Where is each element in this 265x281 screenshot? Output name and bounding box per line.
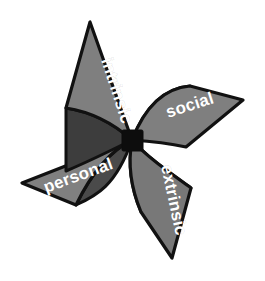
- pinwheel-svg: intrinsic social personal extrinsic: [0, 0, 265, 281]
- pinwheel-figure: intrinsic social personal extrinsic: [0, 0, 265, 281]
- pinwheel-hub: [122, 130, 143, 151]
